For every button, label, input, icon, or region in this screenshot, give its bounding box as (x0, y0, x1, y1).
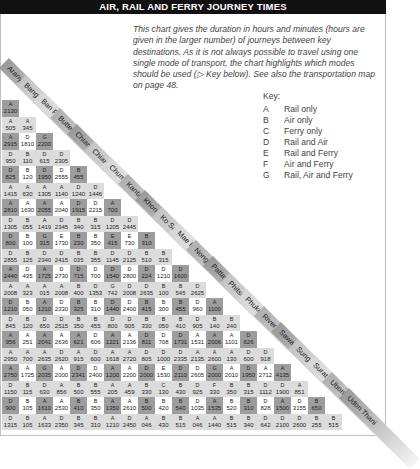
duration-value: 2600 (291, 422, 308, 429)
mode-letter: D (189, 283, 206, 290)
duration-value: 310 (240, 405, 257, 412)
journey-cell: D2350 (53, 414, 70, 431)
journey-cell: D905 (189, 315, 206, 332)
duration-value: 350 (223, 389, 240, 396)
mode-letter: B (223, 398, 240, 405)
journey-cell: A856 (53, 381, 70, 398)
mode-letter: D (121, 415, 138, 422)
mode-letter: D (53, 299, 70, 306)
mode-letter: B (308, 398, 325, 405)
mode-letter: D (53, 151, 70, 158)
mode-letter: B (87, 299, 104, 306)
mode-letter: A (223, 365, 240, 372)
journey-cell: A2200 (121, 364, 138, 381)
duration-value: 1633 (36, 422, 53, 429)
mode-letter: D (138, 332, 155, 339)
journey-cell: D708 (155, 331, 172, 348)
journey-cell: D1112 (257, 381, 274, 398)
journey-cell: A2010 (223, 364, 240, 381)
mode-letter: A (223, 349, 240, 356)
table-row: A956A251A2041A2636A621D606A1221A2136D811… (2, 331, 257, 348)
journey-cell: A1221 (104, 331, 121, 348)
duration-value: 715 (70, 273, 87, 280)
mode-letter: A (36, 415, 53, 422)
mode-letter: D (189, 382, 206, 389)
duration-value: 100 (155, 290, 172, 297)
journey-cell: A2636 (53, 331, 70, 348)
journey-cell: B105 (19, 414, 36, 431)
duration-value: 1200 (104, 372, 121, 379)
journey-cell: D2635 (138, 282, 155, 299)
duration-value: 251 (19, 339, 36, 346)
journey-cell: D960 (189, 298, 206, 315)
journey-cell: B300 (155, 298, 172, 315)
duration-value: 300 (155, 306, 172, 313)
mode-letter: D (87, 266, 104, 273)
journey-cell: B520 (223, 397, 240, 414)
journey-cell: D2600 (291, 414, 308, 431)
duration-value: 1350 (104, 405, 121, 412)
mode-letter: A (104, 415, 121, 422)
duration-value: 2610 (121, 405, 138, 412)
mode-letter: B (87, 233, 104, 240)
duration-value: 120 (19, 323, 36, 330)
journey-cell: G2200 (36, 133, 53, 150)
mode-letter: A (104, 382, 121, 389)
mode-letter: D (36, 250, 53, 257)
duration-value: 130 (223, 356, 240, 363)
journey-cell: D825 (2, 166, 19, 183)
journey-cell: A2136 (121, 331, 138, 348)
intro-text: This chart gives the duration in hours a… (133, 24, 381, 92)
mode-letter: D (87, 184, 104, 191)
mode-letter: D (2, 167, 19, 174)
journey-cell: B330 (138, 315, 155, 332)
duration-value: 1531 (189, 339, 206, 346)
journey-cell: B035 (70, 249, 87, 266)
mode-letter: B (19, 167, 36, 174)
journey-cell: D900 (2, 397, 19, 414)
mode-letter: D (2, 382, 19, 389)
duration-value: 105 (19, 422, 36, 429)
duration-value: 708 (155, 339, 172, 346)
mode-letter: A (36, 217, 53, 224)
mode-letter: B (172, 299, 189, 306)
journey-cell: A915 (70, 348, 87, 365)
journey-cell: B325 (70, 298, 87, 315)
duration-value: 510 (138, 257, 155, 264)
mode-letter: D (121, 250, 138, 257)
mode-letter: B (19, 415, 36, 422)
journey-cell: A2006 (206, 331, 223, 348)
mode-letter: A (19, 184, 36, 191)
duration-value: 1210 (155, 273, 172, 280)
mode-letter: A (53, 283, 70, 290)
journey-cell: A323 (19, 282, 36, 299)
mode-letter: D (172, 332, 189, 339)
mode-letter: D (2, 398, 19, 405)
duration-value: 2555 (53, 174, 70, 181)
duration-value: 1210 (36, 306, 53, 313)
duration-value: 811 (138, 339, 155, 346)
duration-value: 315 (87, 224, 104, 231)
mode-letter: A (206, 349, 223, 356)
journey-cell: A2000 (53, 364, 70, 381)
duration-value: 828 (257, 405, 274, 412)
duration-value: 120 (19, 174, 36, 181)
duration-value: 1101 (223, 339, 240, 346)
mode-letter: A (104, 398, 121, 405)
duration-value: 3155 (291, 405, 308, 412)
table-row: A2950A700A2635D2620A915D600A1618A2720D80… (2, 348, 274, 365)
duration-value: 1305 (36, 191, 53, 198)
duration-value: 600 (87, 356, 104, 363)
mode-letter: B (70, 167, 87, 174)
mode-letter: A (189, 332, 206, 339)
journey-cell: B430 (155, 414, 172, 431)
mode-letter: A (36, 184, 53, 191)
duration-value: 1535 (206, 405, 223, 412)
journey-cell: A1531 (189, 331, 206, 348)
journey-cell: D642 (257, 414, 274, 431)
duration-value: 015 (36, 290, 53, 297)
duration-value: 2040 (53, 207, 70, 214)
table-row: A2750A1725G2035A2000D2341D2400A1200A2200… (2, 364, 291, 381)
mode-letter: B (223, 382, 240, 389)
journey-cell: B115 (19, 381, 36, 398)
